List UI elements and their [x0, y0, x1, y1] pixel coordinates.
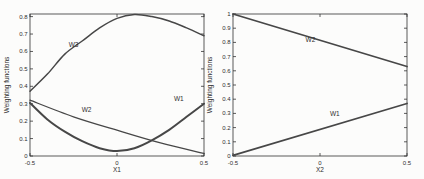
- y-tick-label: 0.3: [222, 110, 231, 116]
- curve-label-w1: W1: [330, 110, 340, 117]
- y-tick-label: 0.7: [19, 31, 28, 37]
- x-tick-label: 0.5: [200, 160, 209, 166]
- x-tick-label: 0.5: [403, 160, 412, 166]
- y-tick-label: 0: [227, 153, 231, 159]
- y-tick-label: 0.6: [19, 48, 28, 54]
- curve-w2: [233, 14, 407, 67]
- curve-label-w2: W2: [306, 36, 316, 43]
- y-tick-label: 0.3: [19, 101, 28, 107]
- y-axis-label: Weighting functions: [206, 56, 214, 113]
- weighting-functions-figure: -0.500.500.10.20.30.40.50.60.70.8X1Weigh…: [0, 0, 424, 179]
- y-tick-label: 0.1: [222, 139, 231, 145]
- y-tick-label: 0.4: [19, 83, 28, 89]
- x-tick-label: -0.5: [25, 160, 36, 166]
- plot-box: [30, 14, 204, 156]
- y-tick-label: 0.2: [19, 118, 28, 124]
- plot-x2: -0.500.500.10.20.30.40.50.60.70.80.91X2W…: [206, 11, 412, 173]
- y-tick-label: 0.4: [222, 96, 231, 102]
- curve-label-w3: W3: [69, 41, 79, 48]
- y-tick-label: 0.7: [222, 54, 231, 60]
- y-tick-label: 0.8: [19, 14, 28, 20]
- curve-w3: [30, 14, 204, 91]
- y-tick-label: 1: [227, 11, 231, 17]
- x-axis-label: X1: [113, 166, 121, 173]
- curve-label-w1: W1: [174, 95, 184, 102]
- y-tick-label: 0.2: [222, 125, 231, 131]
- x-axis-label: X2: [316, 166, 324, 173]
- x-tick-label: -0.5: [228, 160, 239, 166]
- plot-x1: -0.500.500.10.20.30.40.50.60.70.8X1Weigh…: [3, 14, 209, 173]
- y-tick-label: 0.5: [222, 82, 231, 88]
- charts-canvas: -0.500.500.10.20.30.40.50.60.70.8X1Weigh…: [0, 0, 424, 179]
- y-tick-label: 0.8: [222, 39, 231, 45]
- y-axis-label: Weighting functions: [3, 56, 11, 113]
- y-tick-label: 0.5: [19, 66, 28, 72]
- y-tick-label: 0.9: [222, 25, 231, 31]
- plot-box: [233, 14, 407, 156]
- y-tick-label: 0.1: [19, 136, 28, 142]
- y-tick-label: 0: [24, 153, 28, 159]
- curve-label-w2: W2: [82, 106, 92, 113]
- curve-w1: [233, 104, 407, 156]
- y-tick-label: 0.6: [222, 68, 231, 74]
